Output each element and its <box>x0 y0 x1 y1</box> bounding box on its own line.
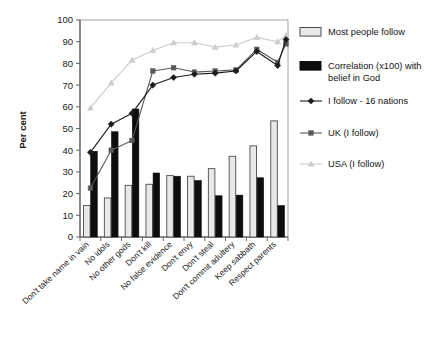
data-point-marker <box>308 98 314 104</box>
x-category-label: Don't take name in vain <box>20 239 91 306</box>
legend-label-0: Most people follow <box>328 27 405 37</box>
y-tick-label: 60 <box>62 101 73 112</box>
bar-most-people-follow <box>250 146 257 237</box>
data-point-marker <box>171 74 177 80</box>
y-axis-tick-marks <box>76 20 80 237</box>
y-axis-tick-labels: 0102030405060708090100 <box>57 14 73 242</box>
y-tick-label: 70 <box>62 80 73 91</box>
y-tick-label: 100 <box>57 14 73 25</box>
y-tick-label: 0 <box>68 231 73 242</box>
bar-most-people-follow <box>271 121 278 237</box>
chart-canvas: 0102030405060708090100 Don't take name i… <box>0 0 440 342</box>
bar-correlation <box>216 196 223 237</box>
legend-label-3: UK (I follow) <box>328 128 379 138</box>
bar-most-people-follow <box>167 176 174 237</box>
data-point-marker <box>309 131 314 136</box>
y-tick-label: 10 <box>62 210 73 221</box>
legend-label-1-line2: belief in God <box>328 73 380 83</box>
data-point-marker <box>129 57 135 62</box>
bar-most-people-follow <box>188 176 195 237</box>
bar-correlation <box>153 173 160 237</box>
y-tick-label: 80 <box>62 58 73 69</box>
bar-most-people-follow <box>104 198 111 237</box>
y-axis-title-text: Per cent <box>17 110 28 148</box>
y-tick-label: 50 <box>62 123 73 134</box>
series-polyline <box>90 35 286 108</box>
bar-correlation <box>195 181 202 237</box>
data-point-marker <box>171 65 176 70</box>
bar-most-people-follow <box>208 169 215 237</box>
legend-swatch-most-people-follow <box>300 28 321 37</box>
bar-correlation <box>257 178 264 237</box>
y-axis-title: Per cent <box>17 110 28 148</box>
bar-correlation <box>174 176 181 237</box>
y-tick-label: 20 <box>62 188 73 199</box>
x-axis-category-labels: Don't take name in vainNo idolsNo other … <box>20 239 278 306</box>
data-point-marker <box>88 186 93 191</box>
y-tick-label: 30 <box>62 166 73 177</box>
legend-label-1: Correlation (x100) with <box>328 61 422 71</box>
chart-figure: 0102030405060708090100 Don't take name i… <box>0 0 440 342</box>
y-tick-label: 90 <box>62 36 73 47</box>
bar-correlation <box>278 206 285 237</box>
bar-most-people-follow <box>229 156 236 237</box>
data-point-marker <box>130 138 135 143</box>
y-tick-label: 40 <box>62 145 73 156</box>
data-point-marker <box>151 69 156 74</box>
legend-label-2: I follow - 16 nations <box>328 96 408 106</box>
bar-most-people-follow <box>84 206 91 237</box>
data-point-marker <box>254 34 260 39</box>
series-polyline <box>90 40 286 153</box>
legend-label-4: USA (I follow) <box>328 159 384 169</box>
data-point-marker <box>109 148 114 153</box>
bar-correlation <box>91 151 98 237</box>
chart-legend: Most people followCorrelation (x100) wit… <box>300 27 422 169</box>
bar-most-people-follow <box>125 185 132 237</box>
bar-correlation <box>236 195 243 237</box>
legend-swatch-correlation <box>300 62 321 71</box>
x-axis-tick-marks <box>80 237 288 241</box>
bar-most-people-follow <box>146 184 153 237</box>
